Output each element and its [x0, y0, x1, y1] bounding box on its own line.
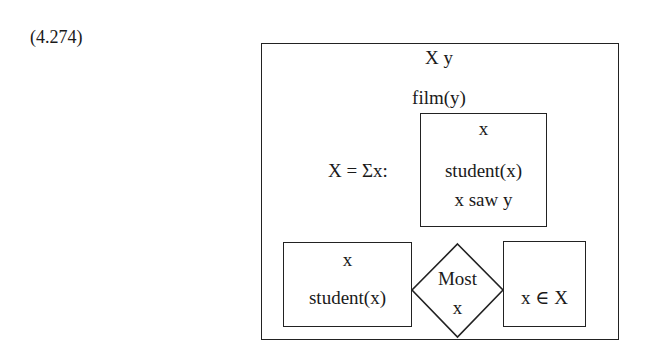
quantifier-diamond	[411, 243, 504, 338]
restrictor-referent: x	[283, 250, 412, 269]
abstraction-referent: x	[420, 119, 547, 138]
outer-condition-film: film(y)	[395, 88, 483, 107]
outer-referents: X y	[400, 48, 478, 67]
restrictor-condition: student(x)	[283, 288, 412, 307]
scope-drs-box	[503, 241, 586, 327]
abstraction-label: X = Σx:	[328, 161, 420, 180]
abstraction-condition-student: student(x)	[420, 161, 547, 180]
scope-condition: x ∈ X	[503, 288, 586, 307]
abstraction-condition-saw: x saw y	[420, 190, 547, 209]
equation-number: (4.274)	[30, 28, 83, 46]
quantifier-variable: x	[411, 298, 504, 317]
quantifier-determiner: Most	[411, 269, 504, 288]
